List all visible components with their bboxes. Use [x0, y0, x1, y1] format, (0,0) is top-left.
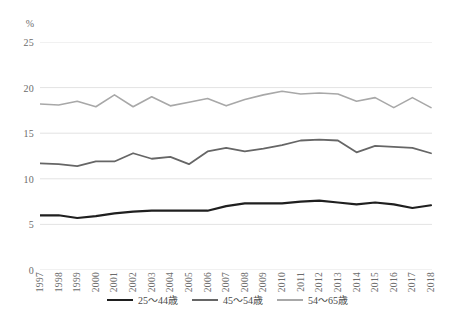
legend-label: 54～65歳	[308, 292, 348, 307]
x-tick-label: 2017	[407, 272, 417, 292]
legend-swatch-line-icon	[192, 299, 218, 301]
x-tick-label: 2001	[109, 272, 119, 292]
x-tick-label: 2018	[426, 272, 436, 292]
x-tick-label: 2007	[221, 272, 231, 292]
x-tick-label: 2015	[370, 272, 380, 292]
series-line-2	[40, 140, 431, 166]
legend-item-1[interactable]: 25～44歳	[107, 292, 178, 307]
line-chart: % 2520151050 199719981999200020012002200…	[0, 0, 455, 319]
series-line-3	[40, 91, 431, 107]
y-tick-label: 15	[24, 128, 34, 139]
y-tick-label: 20	[24, 82, 34, 93]
x-tick-label: 2003	[147, 272, 157, 292]
x-tick-label: 2008	[240, 272, 250, 292]
legend-label: 25～44歳	[138, 292, 178, 307]
x-tick-label: 2010	[277, 272, 287, 292]
legend-label: 45～54歳	[223, 292, 263, 307]
x-tick-label: 2000	[91, 272, 101, 292]
x-tick-label: 1998	[54, 272, 64, 292]
plot-area	[40, 42, 432, 270]
x-tick-label: 2004	[165, 272, 175, 292]
x-tick-label: 2011	[296, 272, 306, 292]
y-axis: % 2520151050	[0, 0, 40, 319]
x-tick-label: 2012	[314, 272, 324, 292]
x-tick-label: 2002	[128, 272, 138, 292]
y-tick-label: 10	[24, 173, 34, 184]
series-line-1	[40, 201, 431, 218]
x-tick-label: 2009	[258, 272, 268, 292]
x-tick-label: 1997	[35, 272, 45, 292]
y-axis-unit-label: %	[26, 18, 34, 29]
legend-item-2[interactable]: 45～54歳	[192, 292, 263, 307]
chart-legend: 25～44歳45～54歳54～65歳	[0, 292, 455, 307]
series-lines	[40, 42, 432, 270]
legend-swatch-line-icon	[277, 299, 303, 301]
x-tick-label: 2006	[203, 272, 213, 292]
x-tick-label: 2013	[333, 272, 343, 292]
legend-swatch-line-icon	[107, 299, 133, 301]
x-tick-label: 2014	[352, 272, 362, 292]
y-tick-label: 25	[24, 37, 34, 48]
x-tick-label: 1999	[72, 272, 82, 292]
y-tick-label: 0	[29, 265, 34, 276]
y-tick-label: 5	[29, 219, 34, 230]
x-tick-label: 2005	[184, 272, 194, 292]
x-tick-label: 2016	[389, 272, 399, 292]
legend-item-3[interactable]: 54～65歳	[277, 292, 348, 307]
